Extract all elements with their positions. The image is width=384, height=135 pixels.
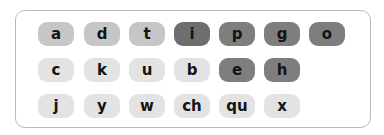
letter-tile-h[interactable]: h (264, 58, 300, 82)
letter-tile-g[interactable]: g (264, 22, 300, 46)
letter-tile-qu[interactable]: qu (219, 94, 255, 118)
letter-tile-j[interactable]: j (38, 94, 74, 118)
letter-tile-t[interactable]: t (129, 22, 165, 46)
letter-tile-a[interactable]: a (38, 22, 74, 46)
letter-tile-ch[interactable]: ch (174, 94, 210, 118)
letter-tile-e[interactable]: e (219, 58, 255, 82)
letter-tile-w[interactable]: w (129, 94, 165, 118)
letter-tile-o[interactable]: o (309, 22, 345, 46)
letter-tile-x[interactable]: x (264, 94, 300, 118)
letter-tile-p[interactable]: p (219, 22, 255, 46)
letter-tile-d[interactable]: d (84, 22, 120, 46)
letter-tile-c[interactable]: c (38, 58, 74, 82)
letter-tile-k[interactable]: k (84, 58, 120, 82)
letter-tile-u[interactable]: u (129, 58, 165, 82)
letter-tile-y[interactable]: y (84, 94, 120, 118)
letter-tile-i[interactable]: i (174, 22, 210, 46)
letter-tile-b[interactable]: b (174, 58, 210, 82)
